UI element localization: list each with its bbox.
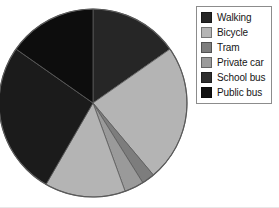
legend-swatch-walking — [201, 12, 212, 23]
legend-label-private-car: Private car — [217, 57, 264, 68]
legend-item-private-car[interactable]: Private car — [201, 55, 268, 70]
legend-label-tram: Tram — [217, 42, 240, 53]
pie-slice-group — [0, 9, 187, 197]
legend-swatch-tram — [201, 42, 212, 53]
legend-label-walking: Walking — [217, 12, 252, 23]
legend-label-public-bus: Public bus — [217, 87, 262, 98]
legend-label-bicycle: Bicycle — [217, 27, 248, 38]
legend-swatch-private-car — [201, 57, 212, 68]
legend-item-walking[interactable]: Walking — [201, 10, 268, 25]
legend-item-school-bus[interactable]: School bus — [201, 70, 268, 85]
legend-item-tram[interactable]: Tram — [201, 40, 268, 55]
legend-swatch-bicycle — [201, 27, 212, 38]
bottom-divider — [0, 207, 279, 208]
legend-label-school-bus: School bus — [217, 72, 265, 83]
legend-item-bicycle[interactable]: Bicycle — [201, 25, 268, 40]
chart-figure: Walking Bicycle Tram Private car School … — [0, 0, 279, 208]
legend-item-public-bus[interactable]: Public bus — [201, 85, 268, 100]
legend-swatch-public-bus — [201, 87, 212, 98]
legend-swatch-school-bus — [201, 72, 212, 83]
chart-legend: Walking Bicycle Tram Private car School … — [196, 6, 272, 104]
